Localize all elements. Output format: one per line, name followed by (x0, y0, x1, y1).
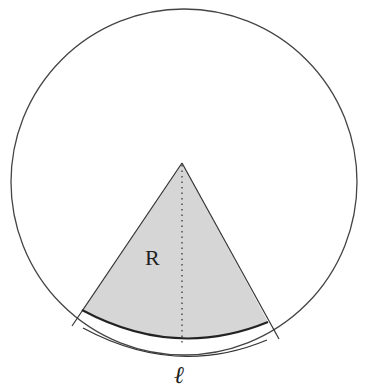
diagram-canvas: R ℓ (0, 0, 371, 387)
arc-length-label: ℓ (174, 362, 184, 387)
region-label: R (145, 245, 160, 270)
sector-region (82, 163, 268, 338)
